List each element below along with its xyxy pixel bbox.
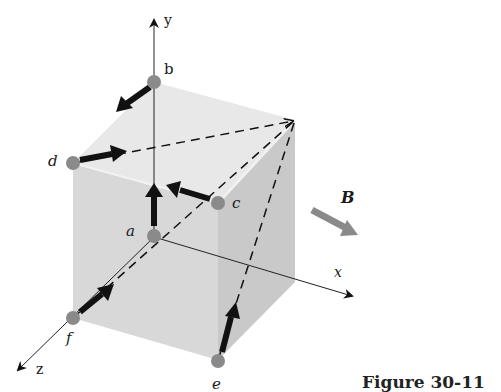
- label-a: a: [126, 222, 135, 240]
- label-c: c: [232, 194, 241, 212]
- label-d: d: [48, 152, 58, 170]
- field-label: B: [340, 188, 355, 207]
- point-b: [147, 75, 161, 89]
- field-arrow-icon: [312, 210, 358, 236]
- point-d: [66, 156, 80, 170]
- x-axis-label: x: [334, 264, 342, 280]
- label-e: e: [212, 375, 221, 392]
- label-f: f: [65, 329, 74, 347]
- label-b: b: [164, 60, 174, 78]
- point-c: [211, 196, 225, 210]
- y-axis-label: y: [163, 12, 172, 28]
- point-a: [147, 229, 161, 243]
- cube: [73, 82, 295, 360]
- z-axis-label: z: [36, 361, 43, 377]
- point-e: [211, 354, 225, 368]
- point-f: [66, 311, 80, 325]
- figure-caption: Figure 30-11: [362, 372, 485, 392]
- figure-diagram: y x z b d c a f e B Figure 30-11: [0, 0, 501, 392]
